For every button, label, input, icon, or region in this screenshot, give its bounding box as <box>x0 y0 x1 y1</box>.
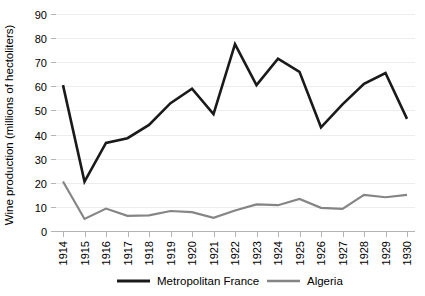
x-tick-label: 1924 <box>272 241 284 265</box>
legend-label-algeria: Algeria <box>307 275 343 287</box>
x-tick-label: 1917 <box>122 241 134 265</box>
y-tick-label: 50 <box>35 105 47 117</box>
x-tick-label: 1914 <box>57 241 69 265</box>
y-tick-label: 10 <box>35 202 47 214</box>
y-tick-label: 20 <box>35 178 47 190</box>
x-tick-label: 1921 <box>208 241 220 265</box>
chart-canvas: 0102030405060708090 19141915191619171918… <box>0 0 425 296</box>
y-tick-label: 0 <box>41 226 47 238</box>
y-tick-label: 60 <box>35 81 47 93</box>
wine-production-line-chart: 0102030405060708090 19141915191619171918… <box>0 0 425 296</box>
x-tick-label: 1925 <box>294 241 306 265</box>
x-tick-label: 1928 <box>358 241 370 265</box>
x-tick-label: 1915 <box>79 241 91 265</box>
x-tick-label: 1916 <box>100 241 112 265</box>
x-tick-label: 1920 <box>186 241 198 265</box>
y-tick-label: 80 <box>35 33 47 45</box>
x-tick-label: 1919 <box>165 241 177 265</box>
y-tick-label: 30 <box>35 154 47 166</box>
x-tick-label: 1926 <box>315 241 327 265</box>
x-tick-label: 1923 <box>251 241 263 265</box>
x-tick-label: 1918 <box>143 241 155 265</box>
x-tick-label: 1930 <box>401 241 413 265</box>
x-tick-label: 1922 <box>229 241 241 265</box>
legend-label-metropolitan-france: Metropolitan France <box>157 275 259 287</box>
y-tick-label: 70 <box>35 57 47 69</box>
x-tick-label: 1927 <box>337 241 349 265</box>
x-axis-tick-labels: 1914191519161917191819191920192119221923… <box>57 241 413 265</box>
y-tick-label: 40 <box>35 130 47 142</box>
y-tick-label: 90 <box>35 9 47 21</box>
x-tick-label: 1929 <box>380 241 392 265</box>
y-axis-title: Wine production (millions of hectoliters… <box>3 24 15 225</box>
